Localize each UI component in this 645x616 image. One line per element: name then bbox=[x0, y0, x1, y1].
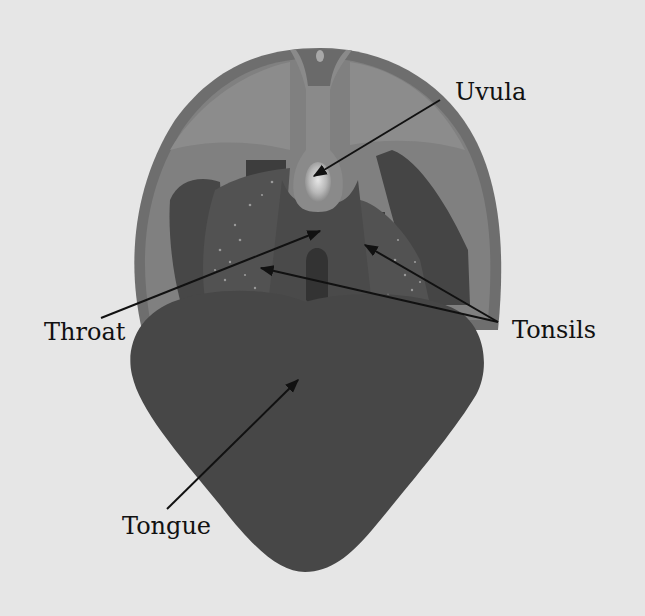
label-tongue: Tongue bbox=[122, 514, 211, 538]
label-tonsils: Tonsils bbox=[512, 318, 596, 342]
label-throat: Throat bbox=[44, 320, 125, 344]
mouth-anatomy-figure bbox=[0, 0, 645, 616]
label-uvula: Uvula bbox=[455, 80, 526, 104]
